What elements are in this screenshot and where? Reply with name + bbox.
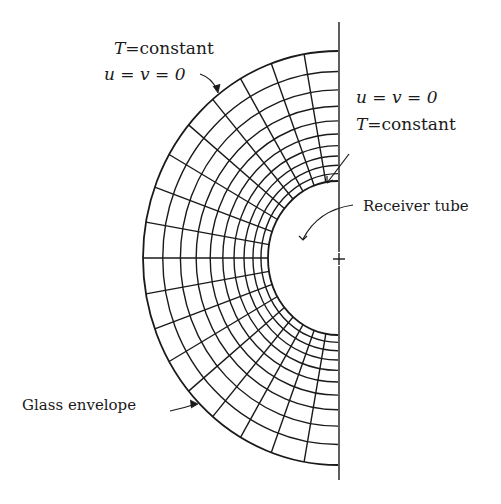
mesh-spoke (241, 79, 304, 192)
inner-bc-label-line1: u = v = 0 (356, 87, 438, 107)
inner-bc-arrow-icon (327, 154, 349, 183)
mesh-spoke (169, 297, 277, 362)
inner-bc-label-line2: T=constant (356, 114, 456, 134)
receiver-tube-label: Receiver tube (363, 197, 469, 215)
glass-envelope-label: Glass envelope (22, 396, 136, 414)
mesh-spoke (241, 325, 304, 438)
receiver-tube-arrow-icon (303, 205, 353, 239)
mesh-spoke (169, 155, 277, 220)
mesh-spoke (189, 308, 285, 392)
mesh-spoke (213, 99, 293, 199)
mesh-diagram: T=constant u = v = 0 u = v = 0 T=constan… (0, 0, 501, 504)
outer-bc-label-line2: u = v = 0 (104, 64, 186, 84)
center-cross-icon (333, 253, 345, 265)
mesh-spoke (189, 125, 285, 209)
outer-bc-label-line1: T=constant (114, 38, 214, 58)
mesh-spoke (213, 317, 293, 417)
annular-mesh (143, 51, 338, 465)
